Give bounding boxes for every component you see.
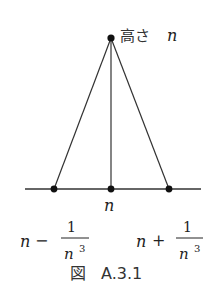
apex-point — [107, 34, 114, 41]
right-label-op: + — [152, 231, 165, 250]
left-label-var: n — [20, 232, 30, 251]
caption-number: A.3.1 — [101, 264, 142, 283]
triangle-function-diagram: 高さ n n n − 1 n 3 n + 1 n 3 図 A.3.1 — [0, 0, 215, 305]
center-base-point — [108, 186, 115, 193]
apex-label-var: n — [167, 26, 177, 45]
left-label: n − 1 n 3 — [20, 219, 89, 263]
right-label-var: n — [136, 232, 146, 251]
left-label-op: − — [35, 231, 48, 250]
center-label: n — [104, 196, 114, 215]
left-label-denominator-var: n — [64, 245, 74, 263]
left-label-denominator-exp: 3 — [79, 243, 85, 254]
right-base-point — [166, 186, 173, 193]
triangle-left-side — [54, 38, 111, 189]
caption-prefix: 図 — [70, 264, 86, 283]
left-base-point — [51, 186, 58, 193]
right-label: n + 1 n 3 — [136, 219, 203, 263]
right-label-numerator: 1 — [183, 219, 192, 235]
triangle-right-side — [111, 38, 169, 189]
right-label-denominator-var: n — [179, 245, 189, 263]
right-label-denominator-exp: 3 — [194, 243, 200, 254]
left-label-numerator: 1 — [67, 219, 76, 235]
apex-label-prefix: 高さ — [120, 27, 150, 45]
